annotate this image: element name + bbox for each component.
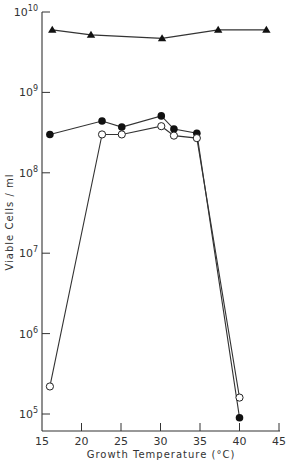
x-tick-label: 20 <box>75 435 89 448</box>
data-point-open-circle <box>158 123 165 130</box>
x-tick-label: 45 <box>272 435 286 448</box>
chart: 15202530354045 1051061071081091010 Growt… <box>0 0 288 464</box>
data-point-filled-circle <box>157 112 165 120</box>
data-point-filled-circle <box>46 131 54 139</box>
axes <box>42 12 280 431</box>
data-point-open-circle <box>98 131 105 138</box>
x-tick-label: 35 <box>193 435 207 448</box>
data-point-filled-circle <box>118 123 126 131</box>
series-open-circles <box>46 123 243 402</box>
data-point-open-circle <box>236 394 243 401</box>
series-group <box>46 26 270 422</box>
data-point-filled-circle <box>236 414 244 422</box>
x-tick-label: 30 <box>154 435 168 448</box>
series-line <box>50 126 240 397</box>
x-tick-label: 25 <box>114 435 128 448</box>
data-point-open-circle <box>193 135 200 142</box>
y-tick-label: 109 <box>19 84 38 99</box>
data-point-filled-circle <box>98 117 106 125</box>
y-axis-title: Viable Cells / ml <box>4 173 15 270</box>
data-point-triangle <box>48 26 56 33</box>
data-point-open-circle <box>46 383 53 390</box>
x-tick-label: 15 <box>35 435 49 448</box>
series-triangles <box>48 26 270 42</box>
y-tick-label: 107 <box>19 245 38 260</box>
x-ticks: 15202530354045 <box>35 423 286 448</box>
data-point-open-circle <box>118 131 125 138</box>
y-tick-label: 1010 <box>14 4 38 19</box>
series-filled-circles <box>46 112 243 421</box>
series-line <box>50 116 240 418</box>
data-point-open-circle <box>170 132 177 139</box>
series-line <box>52 30 266 39</box>
x-tick-label: 40 <box>233 435 247 448</box>
y-tick-label: 105 <box>19 406 38 421</box>
y-tick-label: 108 <box>19 165 38 180</box>
y-tick-label: 106 <box>19 326 38 341</box>
y-ticks: 1051061071081091010 <box>14 4 50 421</box>
x-axis-title: Growth Temperature (°C) <box>87 449 236 460</box>
